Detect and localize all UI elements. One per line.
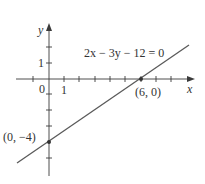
y-intercept-label: (0, −4) bbox=[3, 130, 36, 144]
y-tick-label: 1 bbox=[38, 56, 44, 70]
point-y-intercept bbox=[47, 140, 51, 144]
x-tick-label: 1 bbox=[61, 83, 67, 97]
chart: y x 1 0 1 2x − 3y − 12 = 0 (6, 0) (0, −4… bbox=[0, 0, 205, 184]
y-axis-label: y bbox=[37, 23, 44, 37]
equation-label: 2x − 3y − 12 = 0 bbox=[84, 46, 164, 60]
x-axis-label: x bbox=[186, 82, 193, 96]
x-intercept-label: (6, 0) bbox=[135, 85, 161, 99]
point-x-intercept bbox=[139, 77, 143, 81]
origin-label: 0 bbox=[39, 82, 45, 96]
y-axis-arrow-icon bbox=[46, 23, 52, 31]
